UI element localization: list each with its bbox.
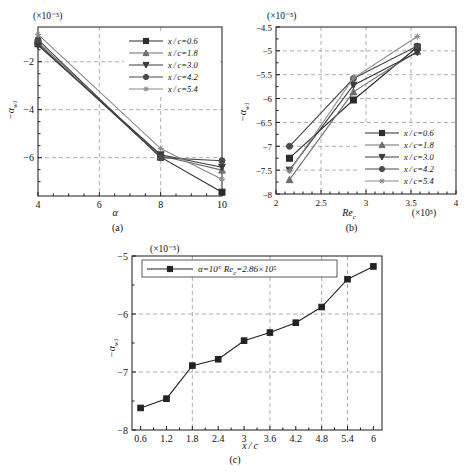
svg-text:−αw1: −αw1: [5, 100, 19, 120]
y-tick-label: −6.5: [256, 118, 273, 128]
subplot-a-xaxis-title: α: [112, 207, 118, 218]
x-tick-label: 3.5: [405, 198, 417, 208]
data-point: [267, 330, 273, 336]
data-point: [293, 320, 299, 326]
subplot-b-yaxis-title: −αw1: [237, 102, 251, 122]
legend-label: x / c=0.6: [403, 128, 434, 138]
subplot-c-caption: (c): [60, 454, 410, 465]
subplot-a: (×10⁻⁵) 46810−2−4−6 x / c=0.6x / c=1.8x …: [0, 0, 235, 240]
subplot-a-svg: (×10⁻⁵) 46810−2−4−6 x / c=0.6x / c=1.8x …: [0, 0, 235, 240]
legend-marker-circle-icon: [379, 166, 384, 171]
svg-text:−αw1: −αw1: [237, 102, 251, 122]
y-tick-label: −7: [262, 142, 272, 152]
x-tick-label: 2.4: [212, 433, 225, 444]
legend-label: x / c=4.2: [167, 72, 198, 82]
y-tick-label: −4.5: [256, 23, 273, 33]
legend-marker-square-icon: [167, 266, 172, 271]
subplot-a-caption: (a): [0, 222, 235, 233]
data-point: [215, 356, 221, 362]
svg-text:(×10⁵): (×10⁵): [412, 208, 437, 219]
svg-text:α: α: [112, 207, 118, 218]
subplot-c-legend: α=10° Rec=2.86×10⁵: [142, 260, 337, 277]
subplot-c-xaxis-title: x / c: [241, 440, 258, 451]
y-tick-label: −7.5: [256, 166, 273, 176]
legend-label: x / c=0.6: [167, 36, 198, 46]
subplot-a-exponent-label: (×10⁻⁵): [33, 11, 63, 22]
data-point: [138, 405, 144, 411]
legend-label: x / c=4.2: [403, 164, 434, 174]
x-tick-label: 3.6: [264, 433, 277, 444]
svg-text:−αw1: −αw1: [106, 338, 120, 358]
subplot-b-x-exponent-label: (×10⁵): [412, 208, 437, 219]
subplot-b-legend: x / c=0.6x / c=1.8x / c=3.0x / c=4.2x / …: [360, 126, 454, 188]
x-tick-label: 0.6: [134, 433, 147, 444]
x-tick-label: 6: [371, 433, 376, 444]
data-point: [219, 176, 225, 182]
y-tick-label: −6: [117, 309, 128, 320]
subplot-c-series-group: [138, 264, 376, 411]
subplot-b: (×10⁻⁵) 22.533.54−4.5−5−5.5−6−6.5−7−7.5−…: [234, 0, 469, 240]
subplot-a-exponent-text: (×10⁻⁵): [33, 11, 63, 22]
legend-label: x / c=5.4: [167, 84, 198, 94]
data-point: [219, 189, 225, 195]
legend-marker-star-icon: [379, 178, 384, 183]
y-tick-label: −8: [262, 190, 272, 200]
y-tick-label: −5: [262, 46, 272, 56]
subplot-c-ticks: 0.61.21.82.433.64.24.85.46−5−6−7−8: [117, 251, 376, 445]
x-tick-label: 8: [158, 199, 163, 210]
data-point: [158, 155, 164, 161]
legend-label: x / c=5.4: [403, 176, 434, 186]
y-tick-label: −5.5: [256, 70, 273, 80]
data-point: [319, 304, 325, 310]
y-tick-label: −4: [23, 104, 34, 115]
data-point: [371, 264, 377, 270]
svg-text:Rec: Rec: [341, 207, 357, 221]
y-tick-label: −8: [117, 425, 128, 436]
x-tick-label: 4.2: [290, 433, 303, 444]
legend-label: x / c=3.0: [403, 152, 434, 162]
x-tick-label: 6: [97, 199, 102, 210]
subplot-b-exponent-text: (×10⁻⁵): [267, 11, 297, 22]
data-point: [35, 37, 41, 43]
svg-text:x / c: x / c: [241, 440, 258, 451]
y-tick-label: −6: [262, 94, 272, 104]
legend-marker-star-icon: [143, 86, 148, 91]
y-tick-label: −6: [23, 152, 34, 163]
x-tick-label: 2.5: [315, 198, 327, 208]
x-tick-label: 1.2: [160, 433, 173, 444]
x-tick-label: 3: [364, 198, 369, 208]
x-tick-label: 4.8: [315, 433, 328, 444]
subplot-b-caption: (b): [234, 222, 469, 233]
subplot-a-legend: x / c=0.6x / c=1.8x / c=3.0x / c=4.2x / …: [124, 34, 218, 96]
legend-label: x / c=3.0: [167, 60, 198, 70]
subplot-c-yaxis-title: −αw1: [106, 338, 120, 358]
legend-marker-circle-icon: [143, 74, 148, 79]
data-point: [345, 276, 351, 282]
data-point: [35, 31, 41, 37]
data-point: [287, 155, 293, 161]
legend-marker-square-icon: [379, 130, 384, 135]
data-point: [414, 34, 420, 40]
subplot-c-svg: (×10⁻⁵) 0.61.21.82.433.64.24.85.46−5−6−7…: [60, 238, 410, 473]
data-point: [350, 97, 356, 103]
subplot-b-xaxis-title: Rec: [341, 207, 357, 221]
data-point: [190, 363, 196, 369]
x-tick-label: 5.4: [341, 433, 354, 444]
subplot-a-yaxis-title: −αw1: [5, 100, 19, 120]
subplot-b-exponent-label: (×10⁻⁵): [267, 11, 297, 22]
y-tick-label: −7: [117, 367, 128, 378]
x-tick-label: 4: [454, 198, 459, 208]
subplot-c-exponent-label: (×10⁻⁵): [150, 244, 180, 255]
data-point: [241, 338, 247, 344]
data-point: [164, 396, 170, 402]
data-series-=10Rec=2.8610: [138, 264, 376, 411]
y-tick-label: −2: [23, 56, 34, 67]
subplot-c: (×10⁻⁵) 0.61.21.82.433.64.24.85.46−5−6−7…: [60, 238, 410, 473]
data-point: [287, 143, 293, 149]
y-tick-label: −5: [117, 251, 128, 262]
x-tick-label: 2: [274, 198, 279, 208]
data-point: [219, 158, 225, 164]
x-tick-label: 4: [36, 199, 41, 210]
data-point: [414, 43, 420, 49]
subplot-b-svg: (×10⁻⁵) 22.533.54−4.5−5−5.5−6−6.5−7−7.5−…: [234, 0, 469, 240]
